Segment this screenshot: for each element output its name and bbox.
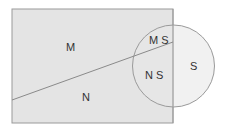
label-m: M <box>66 41 75 53</box>
label-ns: N S <box>145 69 163 81</box>
label-ms: M S <box>149 34 169 46</box>
venn-diagram: M N M S N S S <box>0 0 230 133</box>
label-s: S <box>190 60 197 72</box>
label-n: N <box>82 91 90 103</box>
